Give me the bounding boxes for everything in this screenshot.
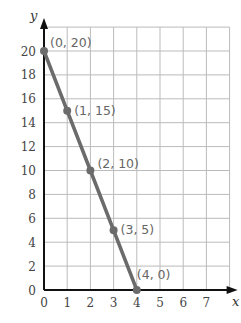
y-tick-label: 10 xyxy=(21,164,36,178)
x-tick-label: 6 xyxy=(179,296,187,310)
y-tick-label: 16 xyxy=(21,92,36,106)
x-tick-label: 4 xyxy=(133,296,141,310)
y-tick-label: 20 xyxy=(21,45,36,59)
data-point xyxy=(133,286,141,294)
x-axis-label: x xyxy=(232,294,240,309)
point-label: (1, 15) xyxy=(74,103,116,118)
data-point xyxy=(86,167,94,175)
x-axis-arrow-icon xyxy=(227,286,238,294)
line-chart: 0123456702468101214161820 (0, 20)(1, 15)… xyxy=(0,0,241,323)
x-tick-label: 5 xyxy=(156,296,164,310)
tick-labels: 0123456702468101214161820 xyxy=(21,45,211,311)
y-tick-label: 14 xyxy=(21,116,37,130)
x-tick-label: 0 xyxy=(40,296,48,310)
point-label: (0, 20) xyxy=(50,35,92,50)
y-tick-label: 18 xyxy=(21,68,36,82)
y-axis-label: y xyxy=(29,8,38,23)
x-tick-label: 1 xyxy=(63,296,71,310)
data-point xyxy=(63,107,71,115)
y-tick-label: 8 xyxy=(28,188,36,202)
point-label: (2, 10) xyxy=(97,156,139,171)
data-point xyxy=(110,226,118,234)
y-tick-label: 2 xyxy=(28,260,36,274)
y-axis-arrow-icon xyxy=(40,18,48,29)
point-annotations: (0, 20)(1, 15)(2, 10)(3, 5)(4, 0) xyxy=(50,35,170,282)
x-tick-label: 2 xyxy=(87,296,95,310)
y-tick-label: 0 xyxy=(28,284,36,298)
x-tick-label: 3 xyxy=(110,296,118,310)
y-tick-label: 4 xyxy=(28,236,36,250)
y-tick-label: 12 xyxy=(21,140,36,154)
data-point xyxy=(40,47,48,55)
y-tick-label: 6 xyxy=(28,212,36,226)
point-label: (4, 0) xyxy=(137,267,171,282)
point-label: (3, 5) xyxy=(121,222,155,237)
x-tick-label: 7 xyxy=(203,296,211,310)
